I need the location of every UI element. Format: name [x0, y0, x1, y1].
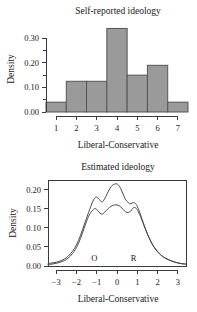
annotation-marker-o: O — [91, 253, 97, 263]
histogram-bar — [46, 102, 66, 112]
chart-panel-estimated-ideology: Estimated ideology0.000.050.100.150.20−3… — [0, 156, 197, 312]
chart-title-estimated-ideology: Estimated ideology — [81, 162, 155, 172]
x-tick-label: 0 — [115, 277, 119, 287]
x-tick-label: 7 — [176, 123, 180, 133]
y-tick-label: 0.20 — [24, 58, 39, 68]
x-tick-label: 5 — [135, 123, 139, 133]
histogram-bar — [87, 81, 107, 112]
annotation-marker-r: R — [131, 253, 137, 263]
self-reported-ideology-chart: Self-reported ideology0.000.100.200.3012… — [0, 0, 197, 156]
estimated-ideology-chart: Estimated ideology0.000.050.100.150.20−3… — [0, 156, 197, 312]
x-tick-label: 1 — [135, 277, 139, 287]
histogram-bar — [107, 28, 127, 112]
y-tick-label: 0.20 — [26, 185, 41, 195]
x-tick-label: 3 — [176, 277, 180, 287]
x-tick-label: −1 — [92, 277, 101, 287]
x-axis-label-bottom: Liberal-Conservative — [78, 294, 159, 304]
chart-panel-self-reported-ideology: Self-reported ideology0.000.100.200.3012… — [0, 0, 197, 156]
y-tick-label: 0.10 — [26, 223, 41, 233]
x-tick-label: 4 — [115, 123, 120, 133]
x-tick-label: 2 — [155, 277, 159, 287]
x-tick-label: −2 — [72, 277, 81, 287]
y-tick-label: 0.00 — [24, 107, 39, 117]
x-tick-label: −3 — [52, 277, 61, 287]
x-axis-label-top: Liberal-Conservative — [78, 140, 159, 150]
y-tick-label: 0.30 — [24, 33, 39, 43]
chart-title-self-reported-ideology: Self-reported ideology — [75, 6, 161, 16]
x-tick-label: 1 — [54, 123, 58, 133]
histogram-bar — [66, 81, 86, 112]
y-tick-label: 0.05 — [26, 242, 41, 252]
plot-box-frame — [48, 180, 186, 266]
y-axis-label-bottom: Density — [8, 208, 18, 238]
x-tick-label: 2 — [74, 123, 78, 133]
density-curve — [48, 184, 186, 264]
x-tick-label: 3 — [95, 123, 99, 133]
histogram-bar — [147, 65, 167, 112]
y-tick-label: 0.10 — [24, 82, 39, 92]
histogram-bar — [168, 102, 188, 112]
figure-container: Self-reported ideology0.000.100.200.3012… — [0, 0, 197, 312]
y-tick-label: 0.00 — [26, 261, 41, 271]
x-tick-label: 6 — [155, 123, 159, 133]
histogram-bar — [127, 75, 147, 112]
y-axis-label-top: Density — [6, 54, 16, 84]
y-tick-label: 0.15 — [26, 204, 41, 214]
